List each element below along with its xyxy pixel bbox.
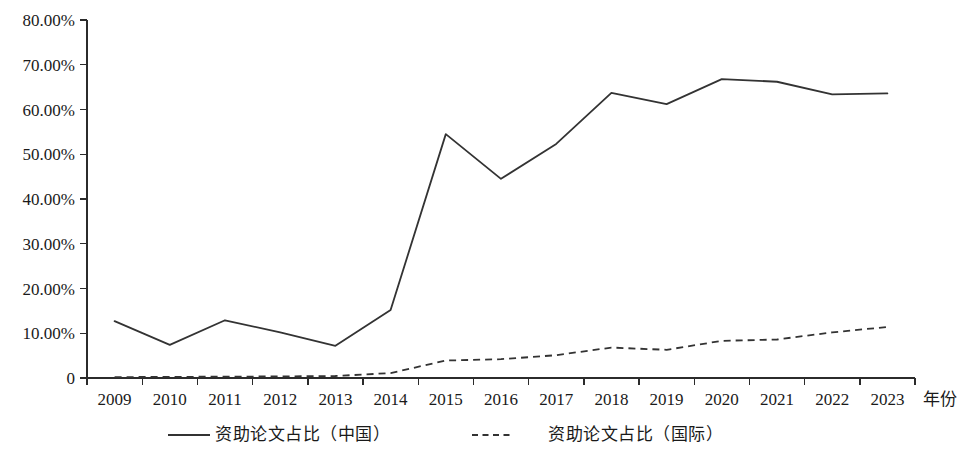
x-tick-label: 2014 [374, 390, 409, 409]
x-tick-label: 2013 [318, 390, 352, 409]
y-tick-label: 50.00% [23, 145, 75, 164]
x-tick-label: 2009 [98, 390, 132, 409]
series-line-2 [115, 327, 888, 377]
legend-label-1: 资助论文占比（中国） [215, 425, 390, 444]
y-tick-label: 20.00% [23, 280, 75, 299]
y-tick-label: 40.00% [23, 190, 75, 209]
x-tick-label: 2015 [429, 390, 463, 409]
x-tick-label: 2020 [705, 390, 739, 409]
x-tick-label: 2017 [539, 390, 574, 409]
x-tick-label: 2010 [153, 390, 187, 409]
x-tick-label: 2016 [484, 390, 518, 409]
y-tick-label: 10.00% [23, 324, 75, 343]
legend-label-2: 资助论文占比（国际） [548, 425, 723, 444]
x-axis-tick-group: 2009201020112012201320142015201620172018… [87, 378, 915, 409]
x-tick-label: 2023 [870, 390, 904, 409]
line-chart-figure: 010.00%20.00%30.00%40.00%50.00%60.00%70.… [0, 0, 962, 453]
y-tick-label: 0 [67, 369, 76, 388]
x-tick-label: 2021 [760, 390, 794, 409]
x-axis-title: 年份 [923, 390, 957, 409]
y-tick-label: 70.00% [23, 56, 75, 75]
x-tick-label: 2011 [208, 390, 241, 409]
series-line-1 [115, 79, 888, 346]
y-tick-label: 30.00% [23, 235, 75, 254]
series-group [115, 79, 888, 377]
y-axis-tick-group: 010.00%20.00%30.00%40.00%50.00%60.00%70.… [23, 11, 87, 388]
x-tick-label: 2019 [650, 390, 684, 409]
y-tick-label: 80.00% [23, 11, 75, 30]
y-tick-label: 60.00% [23, 101, 75, 120]
chart-legend: 资助论文占比（中国）资助论文占比（国际） [168, 425, 723, 444]
x-tick-label: 2022 [815, 390, 849, 409]
chart-container: 010.00%20.00%30.00%40.00%50.00%60.00%70.… [0, 0, 962, 453]
x-tick-label: 2012 [263, 390, 297, 409]
x-tick-label: 2018 [594, 390, 628, 409]
